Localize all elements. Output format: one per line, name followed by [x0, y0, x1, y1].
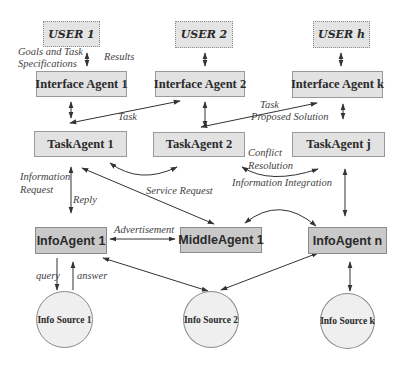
interface-agent-1-box: Interface Agent 1: [36, 71, 127, 97]
info-source-k-label: Info Source k: [320, 316, 375, 326]
task1-task2-curve: [110, 163, 177, 175]
user-2-label: USER 2: [181, 28, 228, 41]
interface-agent-k-box: Interface Agent k: [292, 71, 383, 98]
resolution-label: Resolution: [248, 159, 293, 172]
user-h-box: USER h: [313, 21, 370, 48]
task-agent-2-box: TaskAgent 2: [153, 132, 245, 157]
infoagentn-source2-arrow: [221, 253, 318, 290]
results-label: Results: [104, 50, 134, 63]
proposed-solution-label: Proposed Solution: [251, 110, 328, 123]
conflict-label: Conflict: [248, 146, 282, 159]
interface-agent-2-label: Interface Agent 2: [154, 77, 246, 92]
information-label: Information: [20, 170, 70, 183]
task-agent-j-box: TaskAgent j: [292, 132, 385, 157]
info-agent-n-label: InfoAgent n: [313, 234, 382, 248]
info-source-k-circle: Info Source k: [320, 293, 375, 349]
middle-agent-1-label: MiddleAgent 1: [178, 233, 263, 247]
user-h-label: USER h: [318, 28, 365, 41]
agent-architecture-diagram: USER 1 USER 2 USER h Interface Agent 1 I…: [0, 0, 405, 370]
query-label: query: [36, 269, 60, 282]
advertisement-label: Advertisement: [114, 223, 174, 236]
info-agent-n-box: InfoAgent n: [308, 227, 387, 254]
user-1-label: USER 1: [48, 28, 95, 41]
interface-agent-k-label: Interface Agent k: [291, 77, 384, 92]
information-integration-label: Information Integration: [232, 176, 332, 189]
info-source-1-circle: Info Source 1: [36, 291, 93, 348]
info-agent-1-label: InfoAgent 1: [37, 234, 106, 248]
specifications-label: Specifications: [18, 57, 77, 70]
user-1-box: USER 1: [43, 21, 100, 47]
user-2-box: USER 2: [175, 21, 233, 48]
info-agent-1-box: InfoAgent 1: [35, 227, 107, 254]
task-label-1: Task: [118, 110, 137, 123]
reply-label: Reply: [73, 193, 97, 206]
task-agent-1-box: TaskAgent 1: [34, 131, 127, 157]
service-request-label: Service Request: [146, 184, 213, 197]
task-agent-j-label: TaskAgent j: [306, 137, 370, 152]
middle-agent-1-box: MiddleAgent 1: [180, 227, 262, 253]
request-label: Request: [20, 183, 53, 196]
task-agent-2-label: TaskAgent 2: [166, 137, 233, 152]
task-agent-1-label: TaskAgent 1: [47, 137, 114, 152]
interface-agent-2-box: Interface Agent 2: [155, 71, 245, 97]
info-source-1-label: Info Source 1: [37, 315, 91, 325]
answer-label: answer: [77, 269, 107, 282]
infoagent1-source2-arrow: [103, 258, 208, 291]
interface-agent-1-label: Interface Agent 1: [35, 77, 127, 92]
info-source-2-label: Info Source 2: [184, 315, 238, 325]
info-source-2-circle: Info Source 2: [183, 291, 239, 348]
middle-infoagentn-curve: [245, 210, 316, 226]
